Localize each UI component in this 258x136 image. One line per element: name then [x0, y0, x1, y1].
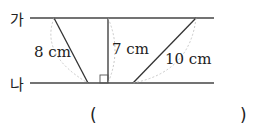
parallel-lines-diagram — [0, 0, 258, 136]
label-7cm: 7 cm — [112, 40, 149, 58]
label-8cm: 8 cm — [34, 43, 71, 61]
label-ga: 가 — [10, 8, 24, 29]
answer-close-paren: ) — [240, 105, 247, 125]
label-na: 나 — [10, 73, 24, 94]
right-angle-mark — [100, 75, 108, 83]
answer-open-paren: ( — [90, 105, 97, 125]
label-10cm: 10 cm — [165, 50, 211, 68]
